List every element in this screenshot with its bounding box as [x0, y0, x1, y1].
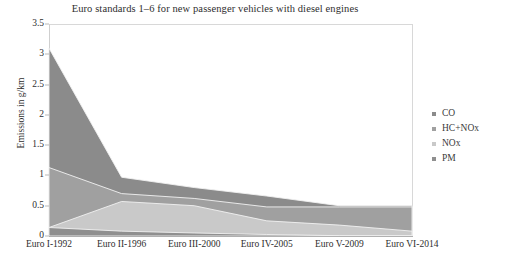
legend-item: PM [432, 151, 479, 166]
legend-item-label: HC+NOx [442, 124, 479, 134]
legend-swatch-icon [432, 142, 436, 146]
legend-item-label: CO [442, 109, 455, 119]
y-axis-tick-mark [45, 205, 49, 206]
x-axis-line [49, 236, 413, 237]
legend-item: NOx [432, 136, 479, 151]
y-axis-tick-mark [45, 236, 49, 237]
y-axis-tick-mark [45, 145, 49, 146]
chart-legend: COHC+NOxNOxPM [432, 106, 479, 166]
y-axis-tick-mark [45, 24, 49, 25]
y-axis-tick-mark [45, 175, 49, 176]
y-axis-tick-mark [45, 114, 49, 115]
legend-item: HC+NOx [432, 121, 479, 136]
y-axis-tick-mark [45, 84, 49, 85]
legend-swatch-icon [432, 112, 436, 116]
legend-item-label: PM [442, 154, 456, 164]
plot-area [0, 0, 505, 269]
legend-item: CO [432, 106, 479, 121]
legend-swatch-icon [432, 127, 436, 131]
legend-item-label: NOx [442, 139, 460, 149]
emissions-area-chart: Euro standards 1–6 for new passenger veh… [0, 0, 505, 269]
legend-swatch-icon [432, 157, 436, 161]
y-axis-tick-mark [45, 54, 49, 55]
